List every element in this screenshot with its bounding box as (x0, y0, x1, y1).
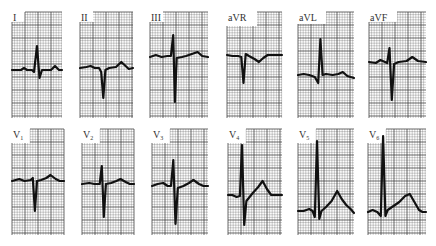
lead-label: V5 (299, 129, 309, 141)
lead-label-text: aVR (228, 12, 247, 23)
lead-label: III (151, 12, 161, 23)
ecg-grid (227, 12, 282, 118)
lead-panel-v3: V3 (152, 129, 208, 235)
lead-label: V3 (153, 129, 163, 141)
lead-label-subscript: 4 (236, 135, 239, 141)
lead-panel-v6: V6 (368, 129, 426, 235)
lead-label-subscript: 5 (306, 135, 309, 141)
lead-label: aVL (299, 12, 317, 23)
lead-panel-ii: II (80, 12, 133, 118)
lead-panel-v1: V1 (12, 129, 64, 235)
lead-label-subscript: 6 (376, 135, 379, 141)
ecg-grid (369, 12, 426, 118)
lead-label: aVR (228, 12, 247, 23)
lead-label: V4 (229, 129, 239, 141)
lead-panel-v2: V2 (82, 129, 134, 235)
ecg-figure: IIIIIIaVRaVLaVFV1V2V3V4V5V6 (0, 0, 436, 246)
ecg-trace-v3 (152, 160, 208, 224)
lead-label: V2 (83, 129, 93, 141)
lead-label-text: aVF (370, 12, 388, 23)
ecg-grid (298, 129, 354, 235)
lead-label: V6 (369, 129, 379, 141)
lead-label-subscript: 2 (90, 135, 93, 141)
ecg-grid (368, 129, 426, 235)
lead-label-text: II (81, 12, 88, 23)
lead-panel-avl: aVL (298, 12, 354, 118)
ecg-trace-v4 (228, 145, 282, 225)
lead-panel-avf: aVF (369, 12, 426, 118)
ecg-grid (150, 12, 208, 118)
lead-panel-iii: III (150, 12, 208, 118)
ecg-grid (228, 129, 282, 235)
lead-label-subscript: 3 (160, 135, 163, 141)
lead-label: V1 (13, 129, 23, 141)
lead-panel-v4: V4 (228, 129, 282, 235)
lead-label-subscript: 1 (20, 135, 23, 141)
ecg-grid (12, 12, 62, 118)
lead-label-text: III (151, 12, 161, 23)
lead-panel-avr: aVR (227, 12, 282, 118)
lead-panel-i: I (12, 12, 62, 118)
ecg-grid (152, 129, 208, 235)
lead-label: II (81, 12, 88, 23)
ecg-grid (298, 12, 354, 118)
lead-panel-v5: V5 (298, 129, 354, 235)
lead-label: aVF (370, 12, 388, 23)
lead-label-text: I (13, 12, 16, 23)
lead-label-text: aVL (299, 12, 317, 23)
lead-label: I (13, 12, 16, 23)
